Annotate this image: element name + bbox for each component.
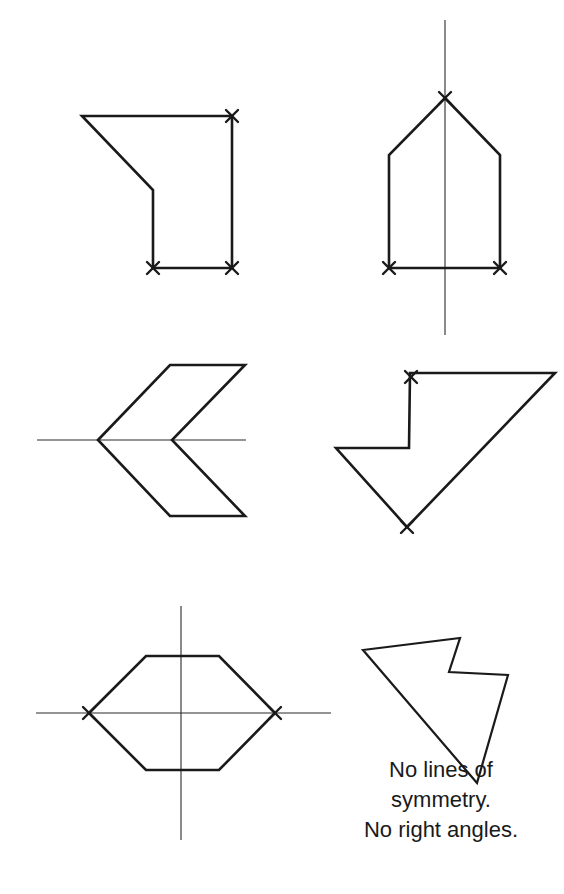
shape-3-chevron xyxy=(37,365,246,516)
shape-1-irregular-pentagon xyxy=(82,110,238,274)
caption-line-3: No right angles. xyxy=(341,815,541,845)
shape-4-irregular-pentagon xyxy=(336,371,555,533)
shape-1-outline xyxy=(82,116,232,268)
shape-2-house-pentagon xyxy=(383,20,506,335)
caption-line-1: No lines of xyxy=(341,755,541,785)
caption-line-2: symmetry. xyxy=(341,785,541,815)
symmetry-diagram: No lines of symmetry. No right angles. xyxy=(0,0,564,894)
right-angle-mark xyxy=(401,521,413,533)
shape-4-outline xyxy=(336,373,555,527)
shape-5-hexagon xyxy=(36,606,331,840)
shape-6-caption: No lines of symmetry. No right angles. xyxy=(341,755,541,845)
